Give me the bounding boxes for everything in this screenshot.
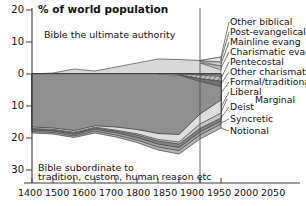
- chart-root: 20 10 0 10 20 30 1400 1500 1600 1700 180…: [0, 0, 306, 206]
- legend-item-other-biblical: Other biblical: [230, 17, 292, 26]
- y-tick-label-20-upper: 20: [2, 5, 24, 15]
- y-tick-label-10-upper: 10: [2, 37, 24, 47]
- legend-item-formal-traditional: Formal/traditional: [230, 77, 306, 86]
- legend-item-charismatic-evang: Charismatic evang: [230, 47, 306, 56]
- legend-item-deist: Deist: [230, 102, 254, 111]
- annotation-bible-ultimate-authority: Bible the ultimate authority: [44, 30, 175, 40]
- x-tick-label-2050: 2050: [261, 188, 285, 198]
- upper-bands: [32, 57, 221, 74]
- legend-item-other-charismatic: Other charismatic: [230, 67, 306, 76]
- x-tick-label-2000: 2000: [234, 188, 258, 198]
- legend-item-notional: Notional: [230, 126, 269, 135]
- y-tick-label-0: 0: [2, 69, 24, 79]
- x-tick-label-1900: 1900: [180, 188, 204, 198]
- legend-item-syncretic: Syncretic: [230, 114, 273, 123]
- x-tick-label-1850: 1850: [153, 188, 177, 198]
- chart-axis-title: % of world population: [38, 4, 168, 15]
- x-tick-label-1800: 1800: [126, 188, 150, 198]
- lower-bands: [32, 74, 221, 154]
- x-tick-label-1950: 1950: [207, 188, 231, 198]
- legend-item-pentecostal: Pentecostal: [230, 57, 284, 66]
- legend-item-mainline-evang: Mainline evang: [230, 37, 301, 46]
- x-tick-label-1400: 1400: [18, 188, 42, 198]
- legend-item-post-evangelical: Post-evangelical: [230, 27, 306, 36]
- y-tick-label-10-lower: 10: [2, 101, 24, 111]
- y-tick-marks: [26, 10, 32, 170]
- x-tick-label-1600: 1600: [72, 188, 96, 198]
- band-other-biblical: [32, 57, 221, 74]
- y-tick-label-20-lower: 20: [2, 133, 24, 143]
- x-tick-label-1700: 1700: [99, 188, 123, 198]
- y-tick-label-30-lower: 30: [2, 165, 24, 175]
- x-tick-label-1500: 1500: [45, 188, 69, 198]
- legend-leader-lines: [221, 22, 229, 131]
- annotation-bible-subordinate-line2: tradition, custom, human reason etc: [38, 172, 212, 182]
- legend-item-marginal: Marginal: [255, 95, 295, 104]
